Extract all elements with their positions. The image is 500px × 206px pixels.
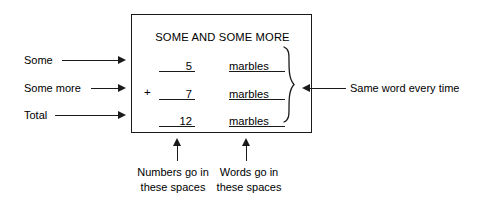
row-3-number-value: 12 [180,114,195,128]
row-2-number-slot: 7 [159,84,195,100]
arrow-shaft [177,144,178,161]
row-1-number-slot: 5 [159,56,195,72]
arrow-shaft [62,60,120,61]
left-label-total: Total [24,109,47,122]
arrow-to-brace-icon [302,84,346,93]
row-2-number-value: 7 [186,87,195,101]
row-2-word-slot: marbles [229,84,285,100]
bottom-annotation-words-line2: these spaces [193,180,305,195]
left-label-some-more: Some more [24,82,81,95]
arrow-head [118,111,126,119]
right-annotation-label: Same word every time [350,82,459,95]
row-2-operator: + [144,85,151,99]
row-1-number-value: 5 [186,59,195,73]
arrow-head [118,56,126,64]
arrow-head [118,84,126,92]
row-3-word-slot: marbles [229,111,285,127]
bottom-annotation-words: Words go in these spaces [193,165,305,194]
arrow-shaft [91,88,120,89]
arrow-to-row-1-icon [62,56,128,65]
row-1-word-value: marbles [229,59,269,73]
arrow-to-row-3-icon [55,111,128,120]
bottom-annotation-words-line1: Words go in [193,165,305,180]
arrow-shaft [309,88,346,89]
diagram-canvas: Some Some more Total SOME AND SOME MORE … [0,0,500,206]
row-3-word-value: marbles [229,114,269,128]
row-3-number-slot: 12 [159,111,195,127]
arrow-to-row-2-icon [91,84,128,93]
box-title: SOME AND SOME MORE [132,31,313,43]
row-1-word-slot: marbles [229,56,285,72]
arrow-to-word-column-icon [242,138,251,161]
curly-brace-icon [282,46,296,123]
arrow-to-number-column-icon [173,138,182,161]
row-2-word-value: marbles [229,87,269,101]
arrow-shaft [246,144,247,161]
arrow-shaft [55,115,120,116]
left-label-some: Some [24,54,53,67]
